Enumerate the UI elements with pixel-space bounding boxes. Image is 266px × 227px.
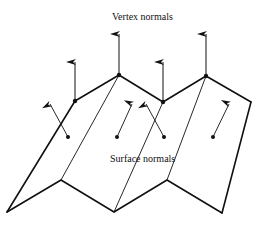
vertex-dot bbox=[161, 100, 165, 104]
surface-dot bbox=[115, 135, 119, 139]
surface-normal-arrow bbox=[117, 104, 132, 137]
surface-dot bbox=[66, 135, 70, 139]
right-edge bbox=[222, 102, 251, 213]
surface-normals bbox=[50, 104, 229, 139]
surface-normals-diagram: Vertex normals Surface normals bbox=[0, 0, 266, 227]
surface-dot bbox=[162, 135, 166, 139]
diagram-svg bbox=[0, 0, 266, 227]
surface-normals-label: Surface normals bbox=[110, 153, 175, 164]
surface-normal-arrow bbox=[50, 104, 68, 137]
fold-line bbox=[61, 75, 119, 180]
vertex-dot bbox=[204, 74, 208, 78]
vertex-normals-label: Vertex normals bbox=[112, 11, 173, 22]
vertex-dot bbox=[117, 73, 121, 77]
bottom-edge bbox=[7, 180, 222, 213]
folded-surface bbox=[7, 75, 251, 213]
fold-line bbox=[167, 76, 206, 180]
left-edge bbox=[7, 101, 75, 212]
surface-normal-arrow bbox=[146, 104, 164, 137]
surface-dot bbox=[211, 135, 215, 139]
surface-normal-arrow bbox=[213, 104, 229, 137]
vertex-dot bbox=[73, 99, 77, 103]
vertex-normals bbox=[73, 34, 208, 104]
